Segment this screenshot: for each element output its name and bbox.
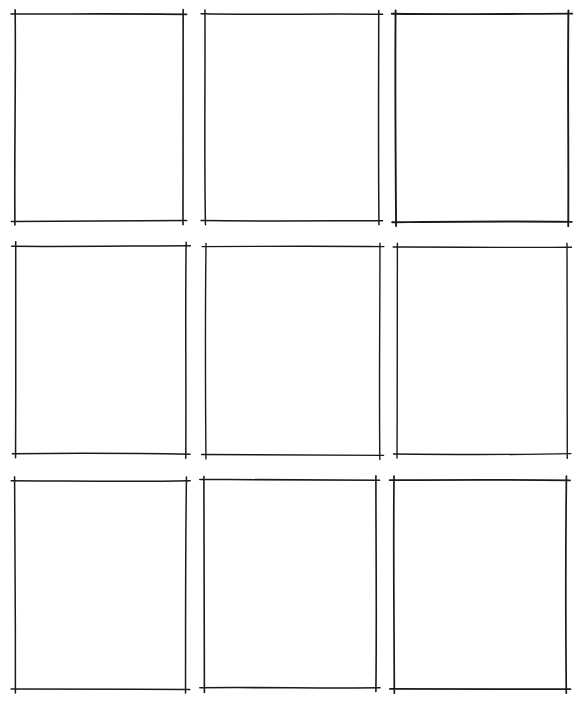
panel-r3-c2 (204, 480, 376, 688)
panel-grid-sheet (0, 0, 580, 705)
panel-r1-c2 (205, 14, 379, 221)
panel-r2-c1 (16, 246, 186, 454)
panel-r2-c3 (397, 247, 567, 454)
panel-r3-c3 (394, 480, 566, 689)
panel-r3-c1 (15, 481, 186, 689)
panel-r1-c1 (15, 14, 183, 221)
panel-r1-c3 (396, 14, 568, 222)
panel-r2-c2 (206, 247, 380, 455)
